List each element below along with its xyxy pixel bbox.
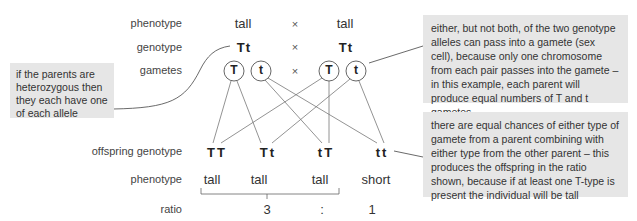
label-phenotype-offspring: phenotype [131, 173, 182, 185]
cross-symbol: × [292, 18, 298, 30]
ratio-recessive: 1 [368, 202, 375, 217]
gamete-p1-t: t [259, 63, 263, 77]
offspring-genotype: TT [207, 145, 227, 160]
callout-gametes: either, but not both, of the two genotyp… [423, 15, 628, 103]
label-ratio: ratio [161, 203, 182, 215]
label-gametes: gametes [140, 64, 182, 76]
parent2-phenotype: tall [337, 16, 354, 31]
parent2-genotype: Tt [339, 40, 353, 55]
label-phenotype-parent: phenotype [131, 17, 182, 29]
offspring-genotype: tT [318, 145, 334, 160]
callout-offspring: there are equal chances of either type o… [423, 112, 628, 197]
offspring-phenotype: tall [204, 172, 221, 187]
gamete-p1-T: T [230, 63, 237, 77]
offspring-phenotype: tall [312, 172, 329, 187]
parent1-genotype: Tt [237, 40, 251, 55]
callout-heterozygous: if the parents are heterozygous then the… [10, 63, 114, 118]
ratio-dominant: 3 [263, 202, 270, 217]
gamete-p2-T: T [325, 63, 332, 77]
offspring-genotype: tt [376, 145, 389, 160]
gamete-p2-t: t [354, 63, 358, 77]
label-genotype: genotype [137, 41, 182, 53]
parent1-phenotype: tall [235, 16, 252, 31]
offspring-phenotype: tall [251, 172, 268, 187]
cross-symbol: × [292, 41, 298, 53]
ratio-separator: : [320, 202, 324, 217]
cross-symbol: × [292, 65, 298, 77]
offspring-phenotype: short [362, 172, 391, 187]
label-offspring-genotype: offspring genotype [92, 145, 182, 157]
offspring-genotype: Tt [260, 145, 276, 160]
